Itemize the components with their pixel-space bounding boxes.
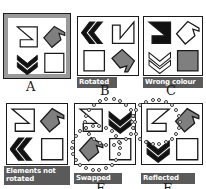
panel-d-cell-top-right bbox=[39, 107, 65, 133]
panel-a-cell-bottom-right bbox=[42, 51, 67, 75]
panel-f-frame bbox=[141, 103, 203, 165]
panel-b-letter: B bbox=[100, 84, 110, 97]
annotation-bubble bbox=[112, 97, 116, 101]
panel-b-cell-bottom-right bbox=[110, 48, 136, 74]
panel-f[interactable] bbox=[141, 103, 203, 165]
panel-e-cell-top-right bbox=[107, 107, 133, 133]
panel-f-cell-bottom-right bbox=[174, 136, 200, 162]
panel-a-cell-top-right bbox=[42, 25, 67, 49]
panel-c-letter: C bbox=[166, 84, 176, 97]
panel-c-cell-bottom-left bbox=[147, 48, 173, 74]
panel-d-cell-bottom-left bbox=[10, 136, 36, 162]
panel-b-cell-bottom-left bbox=[81, 48, 107, 74]
annotation-bubble bbox=[104, 166, 108, 170]
shape-zigzag-z bbox=[10, 107, 36, 133]
shape-zigzag-z bbox=[15, 25, 40, 49]
shape-square bbox=[42, 51, 67, 75]
shape-square bbox=[39, 136, 65, 162]
panel-f-cell-top-left bbox=[145, 107, 171, 133]
shape-chevron-double bbox=[10, 136, 36, 162]
shape-zigzag-z bbox=[78, 107, 104, 133]
panel-c-frame bbox=[143, 16, 203, 76]
panel-d-frame bbox=[6, 103, 68, 165]
panel-f-cell-bottom-left bbox=[145, 136, 171, 162]
shape-chevron-double bbox=[15, 51, 40, 75]
panel-e-cell-bottom-left bbox=[78, 136, 104, 162]
panel-a-frame bbox=[4, 14, 70, 78]
figure-sheet: RotatedWrong colourElements not rotatedS… bbox=[0, 0, 206, 189]
panel-a[interactable] bbox=[4, 14, 70, 78]
shape-arrow-tag bbox=[78, 136, 104, 162]
shape-arrow-tag bbox=[174, 107, 200, 133]
panel-b-cell-top-right bbox=[110, 20, 136, 46]
shape-square bbox=[81, 48, 107, 74]
annotation-bubble bbox=[157, 98, 161, 102]
panel-f-cell-top-right bbox=[174, 107, 200, 133]
panel-c-cell-bottom-right bbox=[175, 48, 201, 74]
shape-chevron-double bbox=[145, 136, 171, 162]
panel-e[interactable] bbox=[74, 103, 136, 165]
shape-arrow-tag bbox=[39, 107, 65, 133]
panel-c[interactable] bbox=[143, 16, 203, 76]
shape-chevron-double bbox=[147, 48, 173, 74]
annotation-bubble bbox=[91, 168, 95, 172]
panel-d-cell-top-left bbox=[10, 107, 36, 133]
panel-e-frame bbox=[74, 103, 136, 165]
panel-c-cell-top-left bbox=[147, 20, 173, 46]
panel-d-caption: Elements not rotated bbox=[4, 166, 70, 185]
shape-zigzag-z bbox=[145, 107, 171, 133]
panel-a-letter: A bbox=[26, 80, 35, 93]
panel-b-cell-top-left bbox=[81, 20, 107, 46]
shape-square bbox=[174, 136, 200, 162]
shape-zigzag-z bbox=[110, 20, 136, 46]
panel-e-cell-bottom-right bbox=[107, 136, 133, 162]
panel-a-cell-bottom-left bbox=[15, 51, 40, 75]
panel-d[interactable] bbox=[6, 103, 68, 165]
panel-e-letter: E bbox=[96, 182, 106, 189]
panel-b[interactable] bbox=[77, 16, 139, 76]
annotation-bubble bbox=[97, 168, 101, 172]
panel-d-cell-bottom-right bbox=[39, 136, 65, 162]
panel-f-letter: F bbox=[163, 182, 172, 189]
panel-b-caption: Rotated bbox=[77, 77, 117, 88]
panel-b-frame bbox=[77, 16, 139, 76]
shape-square bbox=[107, 136, 133, 162]
shape-square bbox=[175, 48, 201, 74]
shape-arrow-tag bbox=[42, 25, 67, 49]
shape-chevron-double bbox=[81, 20, 107, 46]
annotation-bubble bbox=[84, 166, 88, 170]
shape-chevron-double bbox=[107, 107, 133, 133]
panel-a-cell-top-left bbox=[15, 25, 40, 49]
shape-zigzag-z bbox=[147, 20, 173, 46]
shape-arrow-tag bbox=[175, 20, 201, 46]
annotation-bubble bbox=[151, 98, 155, 102]
panel-c-cell-top-right bbox=[175, 20, 201, 46]
shape-arrow-tag bbox=[110, 48, 136, 74]
panel-e-cell-top-left bbox=[78, 107, 104, 133]
